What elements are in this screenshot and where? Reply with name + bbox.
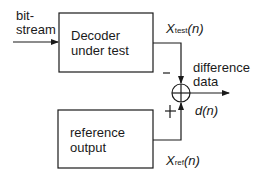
input-label-line1: bit- [16,8,34,23]
test-signal-line [153,43,181,83]
plus-sign-icon [165,105,176,118]
d-n-label: d(n) [195,103,218,118]
output-label-line2: data [193,74,218,89]
summing-junction-icon [172,84,190,102]
decoder-label-line1: Decoder [71,28,120,43]
input-label-line2: stream [16,22,56,37]
reference-label-line2: output [70,140,106,155]
output-label-line1: difference [193,60,250,75]
ref-signal-line [153,103,181,140]
decoder-label-line2: under test [71,43,129,58]
reference-label-line1: reference [70,125,125,140]
x-ref-label: Xref(n) [166,153,200,170]
x-test-label: Xtest(n) [166,21,203,38]
